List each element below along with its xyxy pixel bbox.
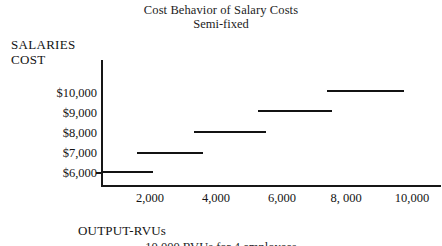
bottom-caption: 10,000 RVUs for 4 employees: [0, 240, 442, 246]
x-tick-label-4000: 4,000: [202, 192, 230, 205]
chart-figure: Cost Behavior of Salary Costs Semi-fixed…: [0, 0, 442, 246]
x-axis-ticks: 2,000 4,000 6,000 8, 000 10,000: [0, 0, 442, 246]
x-tick-label-10000: 10,000: [395, 192, 429, 205]
x-tick-label-6000: 6,000: [268, 192, 296, 205]
x-axis-title: OUTPUT-RVUs: [78, 223, 166, 238]
x-tick-label-8000: 8, 000: [330, 192, 361, 205]
x-tick-label-2000: 2,000: [136, 192, 164, 205]
